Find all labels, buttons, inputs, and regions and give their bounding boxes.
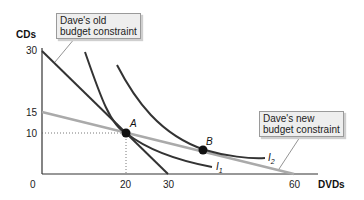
- old-callout-line2: budget constraint: [60, 26, 137, 37]
- i1-label-sub: 1: [219, 167, 223, 174]
- y-tick-30: 30: [26, 45, 38, 56]
- i1-label: I1: [216, 161, 223, 174]
- new-callout-line2: budget constraint: [263, 124, 340, 135]
- new-budget-line: [42, 112, 294, 174]
- i2-label: I2: [268, 152, 275, 165]
- new-callout-leader: [279, 137, 300, 169]
- x-axis-title: DVDs: [318, 179, 345, 190]
- origin-label: 0: [30, 179, 36, 190]
- x-tick-30: 30: [163, 179, 175, 190]
- new-callout-line1: Dave's new: [263, 113, 340, 124]
- y-tick-15: 15: [26, 107, 38, 118]
- y-axis-title: CDs: [16, 29, 36, 40]
- old-callout-line1: Dave's old: [60, 15, 137, 26]
- y-tick-10: 10: [26, 128, 38, 139]
- i2-label-sub: 2: [270, 158, 275, 165]
- point-a-label: A: [129, 118, 137, 129]
- x-tick-60: 60: [289, 179, 301, 190]
- old-callout-leader: [55, 38, 75, 62]
- point-a-marker: [122, 129, 131, 138]
- indifference-curve-i2: [117, 65, 265, 158]
- chart-canvas: 30 15 10 0 20 30 60 CDs DVDs A B I1 I2: [0, 0, 364, 200]
- point-b-label: B: [206, 136, 213, 147]
- old-budget-callout: Dave's old budget constraint: [56, 13, 141, 39]
- x-tick-20: 20: [120, 179, 132, 190]
- new-budget-callout: Dave's new budget constraint: [259, 111, 344, 137]
